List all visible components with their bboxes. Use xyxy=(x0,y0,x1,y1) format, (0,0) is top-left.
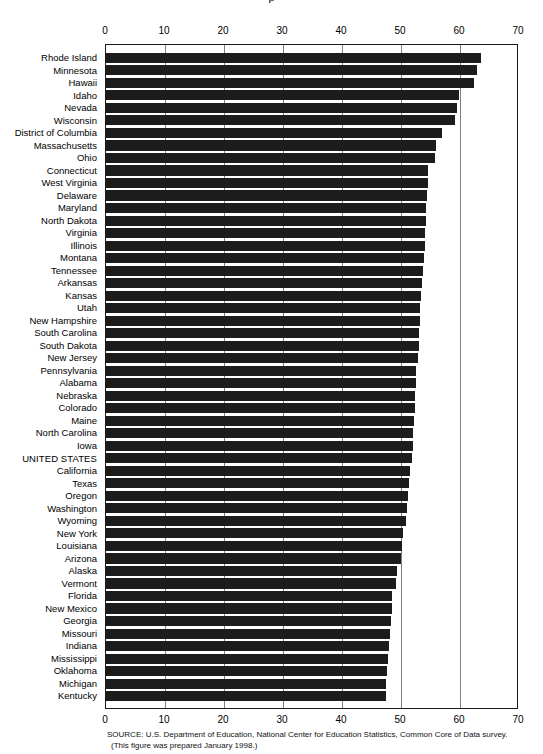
bar-row: New Hampshire xyxy=(0,315,543,328)
bar-texas xyxy=(106,478,409,488)
bar-row: Tennessee xyxy=(0,265,543,278)
bar-label-montana: Montana xyxy=(60,252,97,265)
bar-florida xyxy=(106,591,392,601)
bar-label-iowa: Iowa xyxy=(77,440,97,453)
bar-row: Rhode Island xyxy=(0,52,543,65)
bar-label-washington: Washington xyxy=(47,503,97,516)
bar-arkansas xyxy=(106,278,422,288)
bar-row: Kansas xyxy=(0,290,543,303)
source-note: SOURCE: U.S. Department of Education, Na… xyxy=(107,729,537,751)
tick-label-70: 70 xyxy=(503,24,533,38)
tick-label-40: 40 xyxy=(326,24,356,38)
bar-oregon xyxy=(106,491,408,501)
bar-new-york xyxy=(106,528,403,538)
bar-row: Mississippi xyxy=(0,653,543,666)
bar-row: Delaware xyxy=(0,190,543,203)
tick-label-50: 50 xyxy=(385,713,415,727)
bar-label-south-carolina: South Carolina xyxy=(34,327,97,340)
x-axis-top: 010203040506070 xyxy=(105,24,518,38)
bar-minnesota xyxy=(106,65,477,75)
bar-label-georgia: Georgia xyxy=(63,615,97,628)
bar-row: Oregon xyxy=(0,490,543,503)
bar-row: Arkansas xyxy=(0,277,543,290)
bar-label-florida: Florida xyxy=(68,590,97,603)
bar-arizona xyxy=(106,553,401,563)
bar-washington xyxy=(106,503,407,513)
bar-row: Maryland xyxy=(0,202,543,215)
source-line-1: SOURCE: U.S. Department of Education, Na… xyxy=(107,729,537,740)
tick-label-60: 60 xyxy=(444,24,474,38)
bar-row: Alaska xyxy=(0,565,543,578)
bar-connecticut xyxy=(106,165,428,175)
bar-label-louisiana: Louisiana xyxy=(56,540,97,553)
bar-row: Ohio xyxy=(0,152,543,165)
bar-oklahoma xyxy=(106,666,387,676)
bar-south-carolina xyxy=(106,328,419,338)
bar-indiana xyxy=(106,641,389,651)
bar-row: Idaho xyxy=(0,90,543,103)
bar-label-arizona: Arizona xyxy=(65,553,97,566)
bar-wyoming xyxy=(106,516,406,526)
bar-district-of-columbia xyxy=(106,128,442,138)
tick-label-0: 0 xyxy=(90,24,120,38)
source-line-2: (This figure was prepared January 1998.) xyxy=(107,740,537,751)
bar-row: Pennsylvania xyxy=(0,365,543,378)
bar-label-massachusetts: Massachusetts xyxy=(34,140,97,153)
bar-label-wyoming: Wyoming xyxy=(57,515,97,528)
tick-label-30: 30 xyxy=(267,713,297,727)
bar-new-jersey xyxy=(106,353,418,363)
bar-label-alabama: Alabama xyxy=(60,377,98,390)
bar-label-north-carolina: North Carolina xyxy=(36,427,97,440)
bar-row: Minnesota xyxy=(0,65,543,78)
bar-label-maine: Maine xyxy=(71,415,97,428)
bar-label-connecticut: Connecticut xyxy=(47,165,97,178)
bar-label-colorado: Colorado xyxy=(58,402,97,415)
tick-label-20: 20 xyxy=(208,24,238,38)
bar-label-district-of-columbia: District of Columbia xyxy=(15,127,97,140)
bar-label-west-virginia: West Virginia xyxy=(41,177,97,190)
bar-rows: Rhode IslandMinnesotaHawaiiIdahoNevadaWi… xyxy=(0,52,543,703)
bar-row: Georgia xyxy=(0,615,543,628)
bar-montana xyxy=(106,253,424,263)
bar-label-illinois: Illinois xyxy=(71,240,97,253)
bar-label-kentucky: Kentucky xyxy=(58,690,97,703)
bar-row: Illinois xyxy=(0,240,543,253)
tick-label-20: 20 xyxy=(208,713,238,727)
bar-row: Iowa xyxy=(0,440,543,453)
x-axis-bottom: 010203040506070 xyxy=(105,713,518,727)
bar-row: Hawaii xyxy=(0,77,543,90)
bar-row: Virginia xyxy=(0,227,543,240)
bar-label-new-hampshire: New Hampshire xyxy=(29,315,97,328)
bar-row: Colorado xyxy=(0,402,543,415)
tick-label-50: 50 xyxy=(385,24,415,38)
bar-iowa xyxy=(106,441,413,451)
bar-michigan xyxy=(106,679,386,689)
bar-label-south-dakota: South Dakota xyxy=(39,340,97,353)
bar-north-carolina xyxy=(106,428,413,438)
bar-label-tennessee: Tennessee xyxy=(51,265,97,278)
tick-label-70: 70 xyxy=(503,713,533,727)
bar-tennessee xyxy=(106,266,423,276)
bar-row: Vermont xyxy=(0,578,543,591)
bar-row: South Carolina xyxy=(0,327,543,340)
bar-row: Nebraska xyxy=(0,390,543,403)
bar-row: West Virginia xyxy=(0,177,543,190)
bar-row: Washington xyxy=(0,503,543,516)
bar-pennsylvania xyxy=(106,366,416,376)
bar-vermont xyxy=(106,578,396,588)
bar-label-virginia: Virginia xyxy=(65,227,97,240)
bar-utah xyxy=(106,303,420,313)
bar-hawaii xyxy=(106,78,474,88)
bar-label-united-states: UNITED STATES xyxy=(22,453,97,466)
tick-label-30: 30 xyxy=(267,24,297,38)
bar-kansas xyxy=(106,291,421,301)
bar-row: South Dakota xyxy=(0,340,543,353)
bar-row: Kentucky xyxy=(0,690,543,703)
tick-label-60: 60 xyxy=(444,713,474,727)
bar-alaska xyxy=(106,566,397,576)
bar-row: New York xyxy=(0,528,543,541)
bar-label-indiana: Indiana xyxy=(66,640,97,653)
horizontal-bar-chart: 010203040506070 Rhode IslandMinnesotaHaw… xyxy=(0,0,543,754)
bar-label-california: California xyxy=(57,465,97,478)
bar-label-minnesota: Minnesota xyxy=(53,65,97,78)
